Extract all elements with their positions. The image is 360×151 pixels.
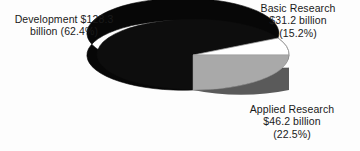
slice-label-applied-research-line1: Applied Research: [232, 103, 352, 115]
slice-label-basic-research-line2: $31.2 billion: [240, 14, 356, 26]
pie-chart: Development $128.3 billion (62.4%) Basic…: [0, 0, 360, 151]
slice-label-development-line1: Development $128.3: [2, 13, 126, 25]
slice-label-basic-research-line3: (15.2%): [240, 27, 356, 39]
slice-label-applied-research-line2: $46.2 billion: [232, 115, 352, 127]
slice-label-development: Development $128.3 billion (62.4%): [2, 13, 126, 38]
slice-label-applied-research-line3: (22.5%): [232, 128, 352, 140]
slice-label-development-line2: billion (62.4%): [2, 25, 126, 37]
slice-label-basic-research-line1: Basic Research: [240, 2, 356, 14]
slice-label-basic-research: Basic Research $31.2 billion (15.2%): [240, 2, 356, 39]
slice-label-applied-research: Applied Research $46.2 billion (22.5%): [232, 103, 352, 140]
